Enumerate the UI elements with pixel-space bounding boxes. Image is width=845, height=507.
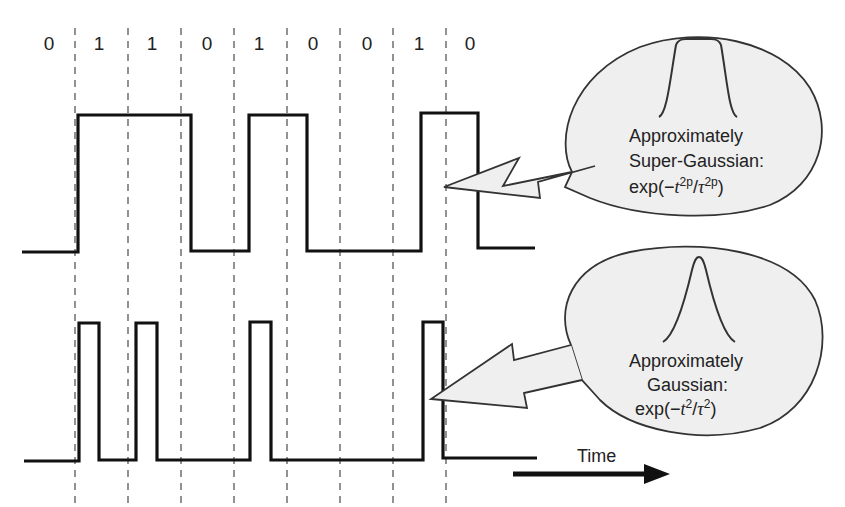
bit-label: 1	[94, 33, 105, 54]
bit-slot-dividers	[75, 28, 446, 507]
callout-line2: Super-Gaussian:	[629, 151, 764, 171]
pulse-shape-diagram: 0 1 1 0 1 0 0 1 0 Approximately Super-Ga…	[0, 0, 845, 507]
time-label: Time	[577, 446, 616, 466]
diagram-canvas: 0 1 1 0 1 0 0 1 0 Approximately Super-Ga…	[0, 0, 845, 507]
callout-line1: Approximately	[629, 126, 743, 146]
bit-label: 1	[147, 33, 158, 54]
time-arrow-head-icon	[644, 464, 670, 484]
bit-label: 0	[308, 33, 319, 54]
bit-label: 0	[465, 33, 476, 54]
super-gaussian-callout: Approximately Super-Gaussian: exp(−t2p/τ…	[444, 37, 822, 216]
gaussian-callout: Approximately Gaussian: exp(−t2/τ2)	[431, 247, 823, 436]
bit-label: 0	[44, 33, 55, 54]
time-axis: Time	[513, 446, 670, 484]
bit-label: 1	[414, 33, 425, 54]
bit-label: 1	[254, 33, 265, 54]
bit-label: 0	[362, 33, 373, 54]
callout-arrow	[431, 344, 582, 408]
bit-labels: 0 1 1 0 1 0 0 1 0	[44, 33, 476, 54]
callout-line1: Approximately	[629, 351, 743, 371]
bit-label: 0	[202, 33, 213, 54]
callout-line2: Gaussian:	[647, 375, 728, 395]
